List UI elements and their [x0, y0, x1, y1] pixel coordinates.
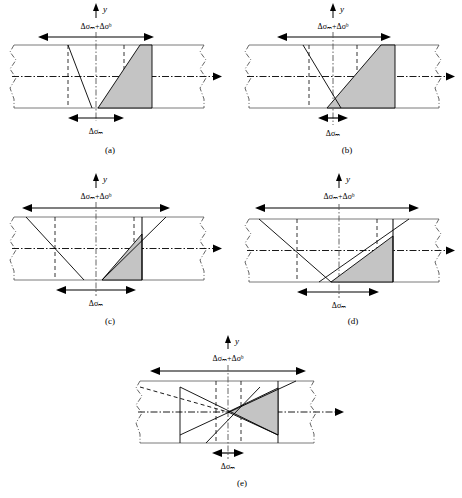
shaded-stress-region: [102, 234, 142, 280]
y-axis-arrow: [93, 173, 99, 188]
stress-line-dashed: [140, 387, 228, 412]
subfigure-a-caption: (a): [90, 145, 130, 155]
y-axis-arrow: [330, 3, 336, 18]
subfigure-d: y Δσₘ+Δσᵇ Δσₘ (d: [231, 170, 462, 335]
subfigure-e-caption: (e): [222, 478, 262, 488]
y-axis-label: y: [102, 174, 107, 184]
horizontal-axis: [12, 245, 222, 253]
horizontal-axis: [247, 73, 455, 81]
shaded-stress-region: [228, 388, 278, 435]
stress-line-ascending: [180, 381, 296, 435]
membrane-stress-label: Δσₘ: [221, 462, 235, 471]
total-stress-label: Δσₘ+Δσᵇ: [213, 354, 244, 363]
y-axis-arrow: [93, 3, 99, 18]
subfigure-e: y Δσₘ+Δσᵇ: [110, 335, 360, 498]
horizontal-axis: [247, 247, 455, 255]
membrane-stress-label: Δσₘ: [89, 299, 103, 308]
membrane-stress-label: Δσₘ: [332, 301, 346, 310]
membrane-stress-label: Δσₘ: [326, 129, 340, 138]
y-axis-label: y: [234, 336, 239, 346]
subfigure-d-caption: (d): [333, 316, 373, 326]
y-axis-label: y: [345, 174, 350, 184]
shaded-stress-region: [331, 236, 393, 282]
membrane-stress-dimension-arrow: [297, 288, 379, 296]
subfigure-c-drawing: y Δσₘ+Δσᵇ Δ: [0, 170, 231, 335]
membrane-stress-label: Δσₘ: [89, 127, 103, 136]
total-stress-label: Δσₘ+Δσᵇ: [81, 22, 112, 31]
y-axis-label: y: [339, 4, 344, 14]
total-stress-label: Δσₘ+Δσᵇ: [318, 22, 349, 31]
total-stress-label: Δσₘ+Δσᵇ: [324, 192, 355, 201]
total-stress-dimension-arrow: [277, 33, 391, 41]
y-axis-arrow: [336, 173, 342, 188]
subfigure-c-caption: (c): [90, 316, 130, 326]
y-axis-arrow: [225, 335, 231, 349]
subfigure-b-caption: (b): [327, 145, 367, 155]
subfigure-a: y Δσₘ+Δσᵇ: [0, 0, 231, 170]
y-axis-label: y: [102, 4, 107, 14]
total-stress-label: Δσₘ+Δσᵇ: [81, 192, 112, 201]
subfigure-c: y Δσₘ+Δσᵇ Δ: [0, 170, 231, 335]
subfigure-e-drawing: y Δσₘ+Δσᵇ: [110, 335, 360, 498]
subfigure-d-drawing: y Δσₘ+Δσᵇ Δσₘ: [231, 170, 462, 335]
subfigure-b: y Δσₘ+Δσᵇ Δσₘ (b): [231, 0, 462, 170]
total-stress-dimension-arrow: [255, 204, 419, 212]
